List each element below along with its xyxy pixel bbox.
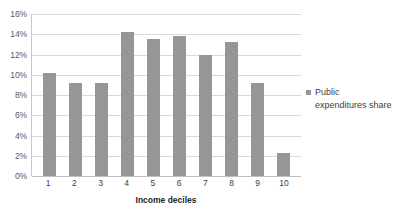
x-axis-tick-label: 4 — [114, 178, 140, 188]
axis-baseline — [32, 176, 301, 177]
x-axis-tick-label: 2 — [61, 178, 87, 188]
legend: Public expenditures share — [306, 86, 394, 112]
bar-slot — [271, 14, 297, 176]
bar[interactable] — [147, 39, 160, 176]
bar-slot — [140, 14, 166, 176]
y-axis-tick-label: 0% — [15, 171, 27, 181]
bar[interactable] — [277, 153, 290, 176]
bar[interactable] — [173, 36, 186, 176]
x-axis-tick-label: 7 — [192, 178, 218, 188]
y-axis-tick-label: 10% — [10, 70, 27, 80]
bar-slot — [36, 14, 62, 176]
bar-slot — [166, 14, 192, 176]
bar-slot — [114, 14, 140, 176]
x-axis-tick-label: 10 — [271, 178, 297, 188]
bar-slot — [88, 14, 114, 176]
x-axis-tick-label: 9 — [245, 178, 271, 188]
legend-label-public-expenditures-share: Public expenditures share — [315, 86, 393, 112]
bar[interactable] — [43, 73, 56, 176]
x-axis: 12345678910 — [31, 178, 301, 188]
bar[interactable] — [199, 55, 212, 177]
bar[interactable] — [225, 42, 238, 176]
legend-swatch-public-expenditures-share — [306, 90, 311, 95]
bar[interactable] — [95, 83, 108, 176]
bar-slot — [219, 14, 245, 176]
x-axis-tick-label: 3 — [87, 178, 113, 188]
plot-area — [31, 14, 301, 176]
bar[interactable] — [69, 83, 82, 176]
y-axis-tick-label: 6% — [15, 110, 27, 120]
x-axis-tick-label: 6 — [166, 178, 192, 188]
bar[interactable] — [121, 32, 134, 176]
y-axis: 0%2%4%6%8%10%12%14%16% — [0, 14, 30, 176]
bar-slot — [193, 14, 219, 176]
y-axis-tick-label: 2% — [15, 151, 27, 161]
y-axis-tick-label: 8% — [15, 90, 27, 100]
bar-slot — [245, 14, 271, 176]
y-axis-tick-label: 16% — [10, 9, 27, 19]
x-axis-tick-label: 5 — [140, 178, 166, 188]
bar-chart: 0%2%4%6%8%10%12%14%16% 12345678910 Incom… — [0, 0, 396, 215]
bars-group — [32, 14, 301, 176]
bar[interactable] — [251, 83, 264, 176]
y-axis-tick-label: 14% — [10, 29, 27, 39]
y-axis-tick-label: 12% — [10, 50, 27, 60]
x-axis-tick-label: 8 — [218, 178, 244, 188]
bar-slot — [62, 14, 88, 176]
x-axis-tick-label: 1 — [35, 178, 61, 188]
y-axis-tick-label: 4% — [15, 131, 27, 141]
x-axis-title: Income deciles — [31, 195, 301, 205]
